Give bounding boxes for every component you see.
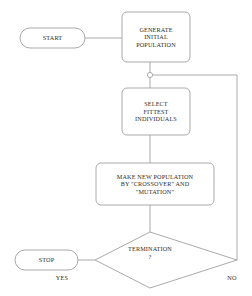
node-stop-shape[interactable]: [15, 250, 78, 270]
flowchart-canvas: START GENERATE INITIAL POPULATION SELECT…: [0, 0, 252, 296]
flowchart-shapes: [0, 0, 252, 296]
node-generate-shape[interactable]: [122, 12, 190, 62]
node-start-shape[interactable]: [20, 28, 85, 48]
node-junction-shape: [147, 72, 152, 77]
node-select-shape[interactable]: [122, 88, 190, 135]
node-make-shape[interactable]: [96, 163, 214, 205]
node-termination-shape[interactable]: [95, 232, 237, 288]
